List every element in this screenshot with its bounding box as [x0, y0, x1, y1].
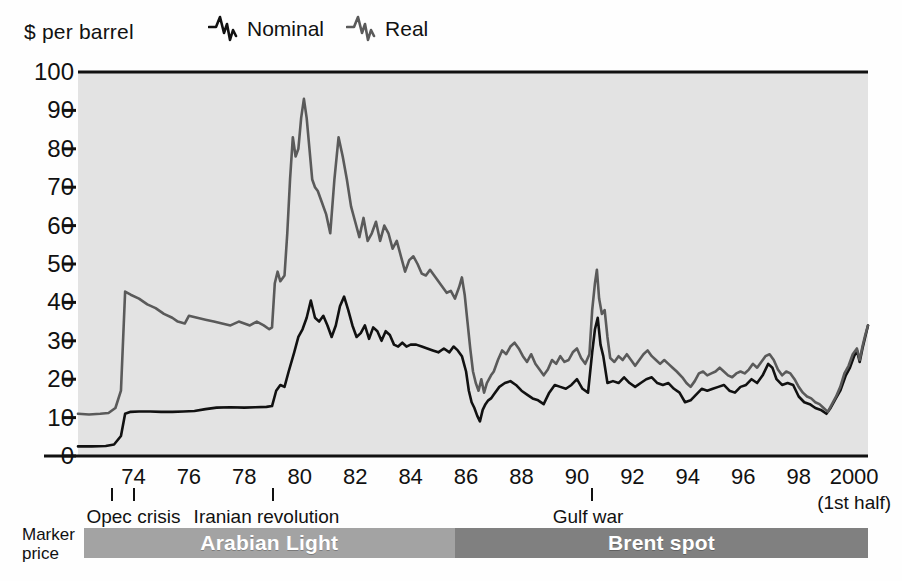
plot-area: 0102030405060708090100 74767880828486889… [0, 0, 902, 581]
marker-price-bar: Arabian Light [84, 528, 455, 558]
event-label: Iranian revolution [194, 506, 340, 528]
marker-price-line1: Marker [22, 525, 75, 544]
marker-price-label: Marker price [22, 525, 75, 563]
event-annotations: Opec crisisIranian revolutionGulf war [0, 0, 902, 581]
event-label: Gulf war [553, 506, 624, 528]
marker-price-bar-label: Arabian Light [200, 531, 338, 555]
chart-figure: $ per barrel NominalReal 010203040506070… [0, 0, 902, 581]
marker-price-bar-label: Brent spot [608, 531, 715, 555]
event-tick [591, 488, 593, 501]
event-tick [133, 488, 135, 501]
marker-price-bar: Brent spot [455, 528, 868, 558]
marker-price-line2: price [22, 544, 59, 563]
event-tick [111, 488, 113, 501]
event-tick [272, 488, 274, 501]
event-label: Opec crisis [86, 506, 180, 528]
